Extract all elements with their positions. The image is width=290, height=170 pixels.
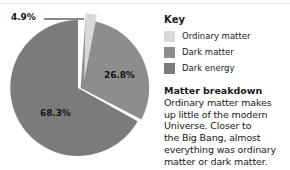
- pie-value-label-dark-matter: 26.8%: [104, 70, 135, 80]
- notes-body: Ordinary matter makes up little of the m…: [164, 97, 290, 167]
- notes-line: up little of the modern: [164, 109, 290, 121]
- pie-value-label-ordinary-matter: 4.9%: [11, 12, 36, 22]
- legend-item-dark-matter: Dark matter: [164, 45, 290, 60]
- legend-swatch-dark-energy: [164, 63, 175, 74]
- legend-swatch-ordinary-matter: [164, 31, 175, 42]
- notes-line: the Big Bang, almost: [164, 132, 290, 144]
- legend-swatch-dark-matter: [164, 47, 175, 58]
- matter-breakdown-figure: 4.9% 26.8% 68.3% Key Ordinary matter Dar…: [0, 0, 290, 170]
- notes-line: everything was ordinary: [164, 144, 290, 156]
- legend-label-dark-matter: Dark matter: [182, 47, 234, 58]
- legend-item-ordinary-matter: Ordinary matter: [164, 29, 290, 44]
- notes-title: Matter breakdown: [164, 85, 262, 96]
- notes-line: Ordinary matter makes: [164, 97, 290, 109]
- pie-chart-graphic: [0, 0, 156, 170]
- legend-label-dark-energy: Dark energy: [182, 63, 235, 74]
- legend-label-ordinary-matter: Ordinary matter: [182, 31, 251, 42]
- pie-value-label-dark-energy: 68.3%: [40, 108, 71, 118]
- notes-line: Universe. Closer to: [164, 120, 290, 132]
- legend: Ordinary matter Dark matter Dark energy: [164, 29, 290, 77]
- side-panel: Key Ordinary matter Dark matter Dark ene…: [164, 0, 290, 170]
- legend-item-dark-energy: Dark energy: [164, 61, 290, 76]
- notes-line: matter or dark matter.: [164, 156, 290, 168]
- pie-chart-panel: 4.9% 26.8% 68.3%: [0, 0, 156, 170]
- legend-title: Key: [164, 14, 185, 25]
